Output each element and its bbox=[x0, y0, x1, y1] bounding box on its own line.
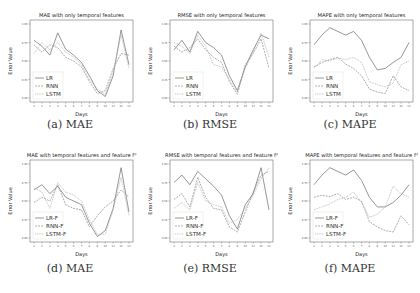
x-tick-label: 4 bbox=[337, 245, 339, 248]
y-tick-label: 0.75 bbox=[162, 182, 168, 185]
y-tick-label: 0.75 bbox=[22, 182, 28, 185]
x-tick-label: 4 bbox=[197, 245, 199, 248]
chart-title: MAPE with only temporal features bbox=[318, 12, 406, 19]
legend-label: RNN-F bbox=[46, 223, 64, 229]
legend-label: LR bbox=[186, 75, 193, 81]
y-axis-label: Error Value bbox=[287, 187, 293, 215]
x-tick-label: 13 bbox=[127, 105, 131, 108]
legend-label: LSTM-F bbox=[326, 231, 346, 237]
y-tick-label: 1.00 bbox=[302, 23, 308, 26]
x-tick-label: 1 bbox=[173, 245, 175, 248]
x-tick-label: 7 bbox=[361, 105, 363, 108]
y-tick-label: 1.00 bbox=[22, 163, 28, 166]
y-tick-label: 0.00 bbox=[162, 97, 168, 100]
x-tick-label: 5 bbox=[65, 105, 67, 108]
x-tick-label: 11 bbox=[252, 245, 256, 248]
x-tick-label: 10 bbox=[104, 105, 108, 108]
y-tick-label: 0.75 bbox=[302, 182, 308, 185]
legend-label: LR-F bbox=[186, 215, 198, 221]
x-tick-label: 2 bbox=[321, 245, 323, 248]
y-tick-label: 0.25 bbox=[302, 219, 308, 222]
x-tick-label: 3 bbox=[329, 105, 331, 108]
x-tick-label: 12 bbox=[119, 245, 123, 248]
x-tick-label: 9 bbox=[377, 245, 379, 248]
x-tick-label: 8 bbox=[229, 105, 231, 108]
legend-label: LR bbox=[46, 75, 53, 81]
y-tick-label: 1.00 bbox=[302, 163, 308, 166]
x-tick-label: 1 bbox=[173, 105, 175, 108]
x-tick-label: 4 bbox=[57, 105, 59, 108]
x-tick-label: 3 bbox=[329, 245, 331, 248]
y-tick-label: 0.75 bbox=[162, 42, 168, 45]
chart-title: RMSE with temporal features and feature … bbox=[165, 152, 278, 159]
y-tick-label: 0.50 bbox=[302, 200, 308, 203]
x-tick-label: 2 bbox=[41, 245, 43, 248]
y-axis-label: Error Value bbox=[147, 47, 153, 75]
x-tick-label: 12 bbox=[259, 245, 263, 248]
x-tick-label: 3 bbox=[189, 105, 191, 108]
x-tick-label: 12 bbox=[259, 105, 263, 108]
y-tick-label: 1.00 bbox=[22, 23, 28, 26]
x-tick-label: 9 bbox=[237, 245, 239, 248]
y-tick-label: 0.50 bbox=[22, 60, 28, 63]
legend-label: LSTM bbox=[186, 91, 201, 97]
x-tick-label: 3 bbox=[49, 245, 51, 248]
x-tick-label: 12 bbox=[399, 105, 403, 108]
x-tick-label: 5 bbox=[205, 105, 207, 108]
y-tick-label: 1.00 bbox=[162, 23, 168, 26]
x-axis-label: Days bbox=[355, 251, 368, 258]
x-tick-label: 11 bbox=[252, 105, 256, 108]
x-tick-label: 5 bbox=[345, 245, 347, 248]
x-tick-label: 4 bbox=[197, 105, 199, 108]
x-tick-label: 9 bbox=[377, 105, 379, 108]
chart-svg: MAE with only temporal featuresError Val… bbox=[0, 0, 140, 120]
figure-caption: (b) RMSE bbox=[140, 118, 280, 131]
x-tick-label: 13 bbox=[407, 245, 411, 248]
x-tick-label: 8 bbox=[229, 245, 231, 248]
y-tick-label: 0.00 bbox=[22, 237, 28, 240]
legend-label: LR bbox=[326, 75, 333, 81]
y-axis-label: Error Value bbox=[7, 187, 13, 215]
y-tick-label: 0.25 bbox=[22, 219, 28, 222]
x-axis-label: Days bbox=[75, 111, 88, 118]
legend-label: RNN bbox=[186, 83, 198, 89]
legend-label: LSTM bbox=[326, 91, 341, 97]
x-tick-label: 11 bbox=[392, 245, 396, 248]
x-tick-label: 10 bbox=[244, 105, 248, 108]
y-tick-label: 0.50 bbox=[162, 200, 168, 203]
x-tick-label: 13 bbox=[267, 105, 271, 108]
legend-label: LSTM bbox=[46, 91, 61, 97]
x-tick-label: 2 bbox=[321, 105, 323, 108]
y-tick-label: 0.75 bbox=[302, 42, 308, 45]
x-tick-label: 8 bbox=[89, 245, 91, 248]
x-tick-label: 6 bbox=[73, 105, 75, 108]
chart-title: MAPE with temporal features and feature … bbox=[305, 152, 418, 159]
x-axis-label: Days bbox=[355, 111, 368, 118]
x-tick-label: 7 bbox=[361, 245, 363, 248]
y-tick-label: 0.25 bbox=[162, 219, 168, 222]
x-axis-label: Days bbox=[75, 251, 88, 258]
y-tick-label: 0.50 bbox=[162, 60, 168, 63]
x-tick-label: 2 bbox=[181, 105, 183, 108]
legend-label: RNN-F bbox=[186, 223, 204, 229]
y-tick-label: 0.00 bbox=[22, 97, 28, 100]
x-tick-label: 8 bbox=[369, 105, 371, 108]
y-tick-label: 0.50 bbox=[22, 200, 28, 203]
x-tick-label: 7 bbox=[81, 105, 83, 108]
x-tick-label: 7 bbox=[81, 245, 83, 248]
legend-label: RNN bbox=[46, 83, 58, 89]
figure-caption: (c) MAPE bbox=[280, 118, 420, 131]
x-tick-label: 5 bbox=[205, 245, 207, 248]
figure-caption: (e) RMSE bbox=[140, 262, 280, 275]
y-tick-label: 0.75 bbox=[22, 42, 28, 45]
x-tick-label: 9 bbox=[237, 105, 239, 108]
x-tick-label: 9 bbox=[97, 105, 99, 108]
x-tick-label: 6 bbox=[213, 105, 215, 108]
y-axis-label: Error Value bbox=[287, 47, 293, 75]
x-tick-label: 8 bbox=[89, 105, 91, 108]
x-tick-label: 4 bbox=[57, 245, 59, 248]
y-tick-label: 1.00 bbox=[162, 163, 168, 166]
chart-svg: RMSE with only temporal featuresError Va… bbox=[140, 0, 280, 120]
legend-label: RNN bbox=[326, 83, 338, 89]
x-tick-label: 2 bbox=[41, 105, 43, 108]
